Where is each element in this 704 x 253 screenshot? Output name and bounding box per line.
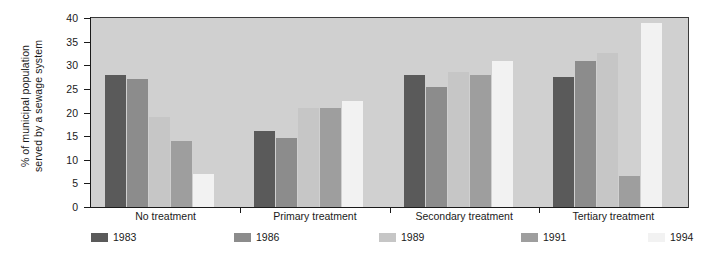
bar bbox=[127, 79, 148, 207]
bar bbox=[320, 108, 341, 207]
y-tick-label: 40 bbox=[50, 13, 78, 23]
y-axis-title: % of municipal population served by a se… bbox=[19, 11, 45, 201]
y-tick-mark bbox=[84, 42, 90, 43]
y-tick-label: 15 bbox=[50, 131, 78, 141]
y-tick-mark bbox=[84, 65, 90, 66]
y-tick-label: 0 bbox=[50, 202, 78, 212]
legend-swatch-icon bbox=[521, 233, 538, 242]
bar bbox=[149, 117, 170, 207]
y-tick-mark bbox=[84, 89, 90, 90]
bar bbox=[448, 72, 469, 207]
bar bbox=[171, 141, 192, 207]
bar bbox=[492, 61, 513, 207]
bar bbox=[105, 75, 126, 207]
category-label: Primary treatment bbox=[240, 210, 389, 223]
y-tick-label: 35 bbox=[50, 37, 78, 47]
legend-label: 1983 bbox=[113, 232, 136, 243]
legend-label: 1989 bbox=[401, 232, 424, 243]
legend-item: 1989 bbox=[379, 231, 424, 243]
y-tick-label: 25 bbox=[50, 84, 78, 94]
y-tick-label: 5 bbox=[50, 178, 78, 188]
y-tick-label: 10 bbox=[50, 155, 78, 165]
legend-label: 1991 bbox=[543, 232, 566, 243]
legend-swatch-icon bbox=[234, 233, 251, 242]
legend-label: 1986 bbox=[256, 232, 279, 243]
bar bbox=[404, 75, 425, 207]
legend-swatch-icon bbox=[91, 233, 108, 242]
bar bbox=[553, 77, 574, 207]
bar bbox=[276, 138, 297, 207]
y-tick-label: 20 bbox=[50, 108, 78, 118]
category-label: Secondary treatment bbox=[390, 210, 539, 223]
legend-swatch-icon bbox=[648, 233, 665, 242]
y-tick-mark bbox=[84, 18, 90, 19]
bar bbox=[641, 23, 662, 207]
bar bbox=[619, 176, 640, 207]
category-label: Tertiary treatment bbox=[539, 210, 688, 223]
y-tick-mark bbox=[84, 136, 90, 137]
legend-item: 1991 bbox=[521, 231, 566, 243]
legend-item: 1986 bbox=[234, 231, 279, 243]
sewage-treatment-bar-chart: % of municipal population served by a se… bbox=[0, 0, 704, 253]
plot-frame-right bbox=[688, 17, 689, 208]
plot-frame-top bbox=[91, 17, 688, 18]
bar bbox=[254, 131, 275, 207]
y-tick-label: 30 bbox=[50, 60, 78, 70]
bar bbox=[342, 101, 363, 207]
legend-item: 1994 bbox=[648, 231, 693, 243]
bar bbox=[426, 87, 447, 207]
y-tick-mark bbox=[84, 113, 90, 114]
legend-item: 1983 bbox=[91, 231, 136, 243]
y-tick-mark bbox=[84, 207, 90, 208]
bar bbox=[575, 61, 596, 207]
chart-legend: 19831986198919911994 bbox=[91, 231, 688, 245]
legend-label: 1994 bbox=[670, 232, 693, 243]
y-tick-mark bbox=[84, 183, 90, 184]
bar bbox=[298, 108, 319, 207]
bar bbox=[470, 75, 491, 207]
bar bbox=[597, 53, 618, 207]
bar bbox=[193, 174, 214, 207]
category-label: No treatment bbox=[91, 210, 240, 223]
y-tick-mark bbox=[84, 160, 90, 161]
legend-swatch-icon bbox=[379, 233, 396, 242]
